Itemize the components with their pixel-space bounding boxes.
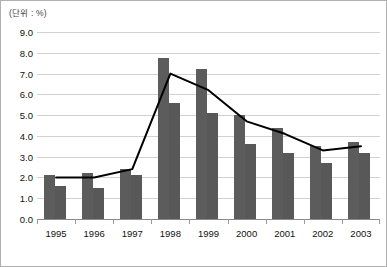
y-tick-label: 7.0	[3, 68, 33, 79]
x-tick-mark	[37, 219, 38, 224]
y-tick-label: 8.0	[3, 47, 33, 58]
x-tick-label: 2000	[236, 228, 257, 239]
x-tick-label: 1995	[45, 228, 66, 239]
y-tick-label: 3.0	[3, 151, 33, 162]
x-tick-label: 1997	[122, 228, 143, 239]
x-tick-mark	[266, 219, 267, 224]
x-tick-mark	[75, 219, 76, 224]
x-tick-label: 2002	[312, 228, 333, 239]
x-tick-mark	[151, 219, 152, 224]
y-tick-label: 0.0	[3, 214, 33, 225]
x-axis-ticks	[37, 219, 380, 227]
line-series-path	[56, 74, 361, 178]
y-tick-label: 9.0	[3, 27, 33, 38]
x-tick-mark	[228, 219, 229, 224]
x-tick-label: 1996	[84, 228, 105, 239]
x-tick-mark	[113, 219, 114, 224]
x-tick-mark	[379, 219, 380, 224]
x-tick-mark	[342, 219, 343, 224]
chart-figure: (단위 : %) 0.01.02.03.04.05.06.07.08.09.0 …	[0, 0, 387, 267]
x-tick-label: 2003	[350, 228, 371, 239]
y-tick-label: 4.0	[3, 130, 33, 141]
x-axis-tick-labels: 199519961997199819992000200120022003	[37, 228, 380, 244]
x-tick-label: 1999	[198, 228, 219, 239]
line-series-overlay	[37, 32, 380, 219]
y-tick-label: 2.0	[3, 172, 33, 183]
y-tick-label: 1.0	[3, 193, 33, 204]
x-tick-mark	[304, 219, 305, 224]
x-tick-mark	[189, 219, 190, 224]
unit-annotation: (단위 : %)	[9, 6, 47, 18]
y-tick-label: 6.0	[3, 89, 33, 100]
y-axis-tick-labels: 0.01.02.03.04.05.06.07.08.09.0	[1, 32, 33, 219]
x-tick-label: 1998	[160, 228, 181, 239]
y-tick-label: 5.0	[3, 110, 33, 121]
x-tick-label: 2001	[274, 228, 295, 239]
